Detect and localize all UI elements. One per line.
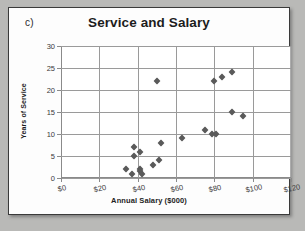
gridline-vertical [99, 46, 100, 178]
y-tick [57, 68, 61, 69]
gridline-vertical [214, 46, 215, 178]
x-tick-label: $60 [170, 183, 184, 194]
x-tick [291, 178, 292, 182]
y-tick-label: 10 [47, 130, 55, 139]
x-tick-label: $0 [57, 183, 67, 194]
chart-card: c) Service and Salary Years of Service 0… [8, 7, 290, 215]
x-axis-title: Annual Salary ($000) [9, 196, 289, 205]
x-tick [253, 178, 254, 182]
y-tick-label: 30 [47, 42, 55, 51]
y-tick-label: 0 [51, 174, 55, 183]
x-tick-label: $100 [244, 182, 262, 194]
x-tick [61, 178, 62, 182]
x-tick-label: $120 [283, 182, 301, 194]
x-tick [176, 178, 177, 182]
y-tick-label: 5 [51, 152, 55, 161]
chart-title: Service and Salary [9, 15, 289, 30]
x-tick-label: $40 [132, 183, 146, 194]
x-tick [99, 178, 100, 182]
gridline-vertical [138, 46, 139, 178]
y-axis-title: Years of Service [20, 83, 27, 139]
gridline-vertical [253, 46, 254, 178]
gridline-vertical [176, 46, 177, 178]
x-tick [214, 178, 215, 182]
plot-area: 051015202530 $0$20$40$60$80$100$120 [61, 46, 291, 178]
y-tick [57, 46, 61, 47]
y-tick [57, 112, 61, 113]
x-tick-label: $80 [208, 183, 222, 194]
y-tick [57, 134, 61, 135]
y-tick-label: 25 [47, 64, 55, 73]
x-tick-label: $20 [93, 183, 107, 194]
y-tick-label: 15 [47, 108, 55, 117]
gridline-vertical [291, 46, 292, 178]
y-tick-label: 20 [47, 86, 55, 95]
x-tick [138, 178, 139, 182]
y-tick [57, 90, 61, 91]
y-tick [57, 156, 61, 157]
